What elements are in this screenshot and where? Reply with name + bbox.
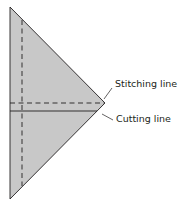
cutting-line-label: Cutting line bbox=[116, 114, 171, 124]
fabric-diagram bbox=[0, 0, 178, 205]
stitching-line-label: Stitching line bbox=[115, 79, 177, 89]
cutting-leader bbox=[102, 114, 113, 120]
stitching-leader bbox=[104, 88, 112, 99]
